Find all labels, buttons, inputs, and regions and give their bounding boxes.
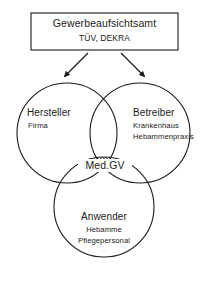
label-betreiber: Betreiber (133, 108, 174, 119)
anwender-item-hebamme: Hebamme (64, 226, 144, 234)
venn-diagram: Gewerbeaufsichtsamt TÜV, DEKRA Herstelle… (0, 0, 208, 284)
label-med-gv: Med.GV (78, 159, 132, 172)
label-hersteller: Hersteller (27, 108, 71, 119)
betreiber-item-krankenhaus: Krankenhaus (133, 122, 179, 130)
anwender-item-pflegepersonal: Pflegepersonal (64, 237, 144, 245)
authority-title: Gewerbeaufsichtsamt (31, 18, 178, 29)
arrow-to-betreiber (121, 53, 145, 77)
arrow-to-hersteller (65, 53, 89, 77)
label-anwender: Anwender (64, 212, 144, 223)
authority-subtitle: TÜV, DEKRA (31, 34, 178, 43)
hersteller-item-firma: Firma (28, 122, 48, 130)
betreiber-item-hebammenpraxis: Hebammenpraxis (133, 133, 194, 141)
